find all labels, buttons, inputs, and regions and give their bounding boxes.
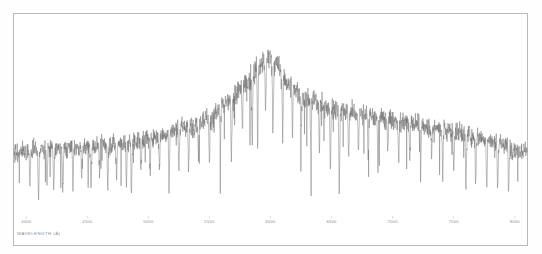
- spectrum-plot-area: [0, 0, 542, 254]
- x-tick-label: 8000: [510, 219, 520, 224]
- x-tick-label: 5000: [143, 219, 153, 224]
- x-tick-label: 6000: [265, 219, 275, 224]
- x-tick-label: 7000: [388, 219, 398, 224]
- spectrum-trace: [14, 50, 527, 200]
- x-tick-label: 6500: [327, 219, 337, 224]
- x-tick-label: 4500: [82, 219, 92, 224]
- x-tick-label: 7500: [449, 219, 459, 224]
- x-axis-label: WAVELENGTH (Å): [17, 231, 61, 236]
- spectrum-figure: 400045005000550060006500700075008000 WAV…: [0, 0, 542, 254]
- x-tick-label: 5500: [204, 219, 214, 224]
- x-tick-label: 4000: [21, 219, 31, 224]
